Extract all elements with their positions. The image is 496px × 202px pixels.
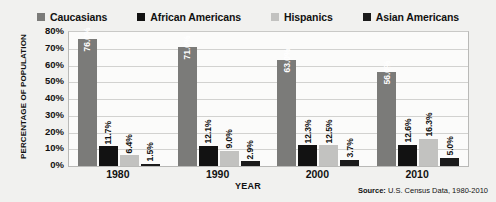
bar-value-label: 12.3% <box>304 119 313 143</box>
bar[interactable]: 76.0% <box>78 39 97 166</box>
bar-group: 56.0%12.6%16.3%5.0% <box>368 32 468 166</box>
legend-item-label: Asian Americans <box>376 11 459 23</box>
bar-wrapper: 12.6% <box>398 32 417 166</box>
y-axis-tick-label: 50% <box>30 77 64 87</box>
y-axis-tick-label: 10% <box>30 144 64 154</box>
bar-chart: CaucasiansAfrican AmericansHispanicsAsia… <box>0 0 496 202</box>
bar-value-label: 6.4% <box>125 134 134 153</box>
y-axis-tick-label: 40% <box>30 93 64 103</box>
bar-group: 71.0%12.1%9.0%2.9% <box>169 32 269 166</box>
bar-wrapper: 56.0% <box>377 32 396 166</box>
x-axis-tick-label: 2000 <box>268 168 368 182</box>
x-axis-tick-label: 1980 <box>68 168 168 182</box>
bar-value-label: 2.9% <box>246 140 255 159</box>
y-axis-title: PERCENTAGE OF POPULATION <box>19 24 28 169</box>
bar[interactable]: 63.0% <box>277 60 296 166</box>
plot-area: 76.0%11.7%6.4%1.5%71.0%12.1%9.0%2.9%63.0… <box>68 31 469 167</box>
bar[interactable]: 3.7% <box>340 160 359 166</box>
y-axis-tick-label: 30% <box>30 110 64 120</box>
legend-item-label: Caucasians <box>50 11 107 23</box>
bar-wrapper: 2.9% <box>241 32 260 166</box>
bar-value-label: 11.7% <box>104 121 113 145</box>
bar-wrapper: 9.0% <box>220 32 239 166</box>
bar-value-label: 1.5% <box>146 142 155 161</box>
bar[interactable]: 12.1% <box>199 146 218 166</box>
source-label: Source: <box>358 186 386 195</box>
bar[interactable]: 12.6% <box>398 145 417 166</box>
bar-group: 76.0%11.7%6.4%1.5% <box>69 32 169 166</box>
chart-legend: CaucasiansAfrican AmericansHispanicsAsia… <box>0 9 496 25</box>
x-axis-tick-label: 1990 <box>168 168 268 182</box>
bar-value-label: 71.0% <box>183 35 192 59</box>
bar[interactable]: 71.0% <box>178 47 197 166</box>
bar-wrapper: 71.0% <box>178 32 197 166</box>
bar-wrapper: 5.0% <box>440 32 459 166</box>
bar-wrapper: 76.0% <box>78 32 97 166</box>
bar-value-label: 76.0% <box>83 27 92 51</box>
y-axis-tick-labels: 80%70%60%50%40%30%20%10%0% <box>30 25 64 171</box>
bar-value-label: 12.1% <box>204 120 213 144</box>
bar-value-label: 63.0% <box>283 49 292 73</box>
bar-value-label: 12.5% <box>325 119 334 143</box>
bar[interactable]: 2.9% <box>241 161 260 166</box>
y-axis-tick-label: 60% <box>30 60 64 70</box>
bar-wrapper: 1.5% <box>141 32 160 166</box>
legend-swatch-icon <box>363 13 371 21</box>
bar-wrapper: 16.3% <box>419 32 438 166</box>
bar-value-label: 5.0% <box>445 136 454 155</box>
legend-item[interactable]: Asian Americans <box>363 11 459 23</box>
source-text: U.S. Census Data, 1980-2010 <box>386 186 488 195</box>
bar-wrapper: 3.7% <box>340 32 359 166</box>
bar-groups: 76.0%11.7%6.4%1.5%71.0%12.1%9.0%2.9%63.0… <box>69 32 468 166</box>
legend-item-label: African Americans <box>150 11 241 23</box>
y-axis-tick-label: 20% <box>30 127 64 137</box>
y-axis-tick-label: 80% <box>30 26 64 36</box>
bar-value-label: 16.3% <box>424 113 433 137</box>
legend-item[interactable]: Caucasians <box>37 11 107 23</box>
bar[interactable]: 12.5% <box>319 145 338 166</box>
bar[interactable]: 6.4% <box>120 155 139 166</box>
bar[interactable]: 1.5% <box>141 164 160 167</box>
legend-swatch-icon <box>37 13 45 21</box>
legend-item[interactable]: Hispanics <box>271 11 333 23</box>
legend-swatch-icon <box>137 13 145 21</box>
bar[interactable]: 16.3% <box>419 139 438 166</box>
source-note: Source: U.S. Census Data, 1980-2010 <box>358 186 488 195</box>
bar[interactable]: 9.0% <box>220 151 239 166</box>
bar[interactable]: 12.3% <box>298 145 317 166</box>
bar[interactable]: 11.7% <box>99 146 118 166</box>
bar-value-label: 56.0% <box>382 61 391 85</box>
bar-value-label: 12.6% <box>403 119 412 143</box>
bar-group: 63.0%12.3%12.5%3.7% <box>269 32 369 166</box>
x-axis-tick-labels: 1980199020002010 <box>68 168 467 182</box>
bar-wrapper: 12.1% <box>199 32 218 166</box>
y-axis-tick-label: 70% <box>30 43 64 53</box>
bar-value-label: 3.7% <box>346 138 355 157</box>
bar[interactable]: 56.0% <box>377 72 396 166</box>
legend-item-label: Hispanics <box>284 11 333 23</box>
bar-wrapper: 12.3% <box>298 32 317 166</box>
bar-wrapper: 11.7% <box>99 32 118 166</box>
bar-wrapper: 63.0% <box>277 32 296 166</box>
y-axis-tick-label: 0% <box>30 160 64 170</box>
bar-wrapper: 6.4% <box>120 32 139 166</box>
x-axis-tick-label: 2010 <box>367 168 467 182</box>
legend-item[interactable]: African Americans <box>137 11 241 23</box>
bar-wrapper: 12.5% <box>319 32 338 166</box>
bar[interactable]: 5.0% <box>440 158 459 166</box>
bar-value-label: 9.0% <box>225 130 234 149</box>
legend-swatch-icon <box>271 13 279 21</box>
